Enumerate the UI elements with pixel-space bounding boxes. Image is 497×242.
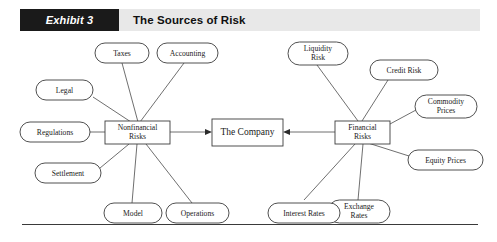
- node-commodity-prices-label-1: Commodity: [428, 97, 464, 106]
- node-taxes-label: Taxes: [113, 49, 131, 58]
- node-liquidity-risk[interactable]: Liquidity Risk: [288, 42, 348, 65]
- node-financial-risks-label-2: Risks: [354, 132, 371, 141]
- node-equity-prices-label: Equity Prices: [425, 156, 466, 165]
- edge-credit-financial: [362, 80, 388, 121]
- flow-nonfinancial-to-company: [170, 129, 212, 135]
- node-interest-rates[interactable]: Interest Rates: [268, 203, 340, 223]
- node-equity-prices[interactable]: Equity Prices: [408, 150, 483, 170]
- node-settlement-label: Settlement: [52, 169, 85, 178]
- node-legal[interactable]: Legal: [36, 80, 93, 100]
- edge-accounting-nonfinancial: [140, 63, 184, 122]
- node-commodity-prices[interactable]: Commodity Prices: [415, 95, 477, 118]
- edge-commodity-financial: [390, 110, 416, 124]
- edge-exchange-financial: [358, 144, 363, 200]
- node-settlement[interactable]: Settlement: [35, 163, 101, 183]
- node-interest-rates-label: Interest Rates: [283, 209, 325, 218]
- exhibit-figure: Exhibit 3 The Sources of Risk: [0, 0, 497, 242]
- node-exchange-rates-label-2: Rates: [351, 211, 368, 220]
- arrow-head-right: [283, 129, 290, 135]
- edge-taxes-nonfinancial: [122, 63, 138, 122]
- node-operations[interactable]: Operations: [166, 203, 229, 223]
- node-credit-risk[interactable]: Credit Risk: [370, 60, 438, 80]
- node-legal-label: Legal: [56, 86, 73, 95]
- node-model-label: Model: [123, 209, 143, 218]
- edge-interest-financial: [304, 144, 355, 200]
- node-commodity-prices-label-2: Prices: [437, 106, 456, 115]
- node-exchange-rates-label-1: Exchange: [344, 202, 375, 211]
- edge-equity-financial: [368, 143, 409, 156]
- flow-financial-to-company: [283, 129, 335, 135]
- node-regulations[interactable]: Regulations: [20, 122, 90, 142]
- node-nonfinancial-risks[interactable]: Nonfinancial Risks: [105, 121, 170, 144]
- node-the-company-label: The Company: [220, 127, 274, 137]
- node-operations-label: Operations: [181, 209, 214, 218]
- node-liquidity-risk-label-1: Liquidity: [304, 44, 332, 53]
- edge-legal-nonfinancial: [93, 97, 131, 122]
- edge-liquidity-financial: [317, 65, 358, 121]
- node-financial-risks[interactable]: Financial Risks: [335, 121, 390, 144]
- bottom-divider: [22, 224, 478, 225]
- node-regulations-label: Regulations: [37, 128, 73, 137]
- node-accounting[interactable]: Accounting: [157, 43, 218, 63]
- node-financial-risks-label-1: Financial: [348, 123, 376, 132]
- node-model[interactable]: Model: [104, 203, 162, 223]
- node-liquidity-risk-label-2: Risk: [311, 53, 325, 62]
- node-nonfinancial-risks-label-2: Risks: [129, 132, 146, 141]
- arrow-head-left: [205, 129, 212, 135]
- node-nonfinancial-risks-label-1: Nonfinancial: [118, 123, 158, 132]
- node-taxes[interactable]: Taxes: [95, 43, 149, 63]
- node-the-company[interactable]: The Company: [212, 119, 283, 146]
- risk-sources-diagram: Taxes Accounting Legal Regulations Settl…: [0, 0, 497, 242]
- edge-operations-nonfinancial: [146, 144, 192, 203]
- node-credit-risk-label: Credit Risk: [387, 66, 422, 75]
- edge-model-nonfinancial: [132, 144, 137, 203]
- node-accounting-label: Accounting: [170, 49, 206, 58]
